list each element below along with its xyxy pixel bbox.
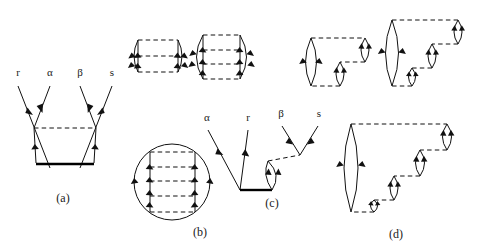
caption-d: (d) — [389, 227, 403, 241]
panel-d-group: (d) — [336, 124, 454, 241]
figure-page: (a) r α β s — [0, 0, 477, 248]
panel-b-medium-ladder — [188, 35, 254, 79]
caption-c: (c) — [265, 196, 278, 210]
panel-a-group: (a) r α β s — [16, 66, 114, 205]
caption-b: (b) — [193, 225, 207, 239]
label-a-r: r — [16, 66, 20, 78]
label-a-s: s — [110, 66, 114, 78]
diagram-canvas: (a) r α β s — [0, 0, 477, 248]
label-c-alpha: α — [204, 111, 210, 123]
label-c-s: s — [317, 107, 321, 119]
panel-c-group: (c) α r β s — [204, 107, 321, 210]
panel-b-small-ladder — [128, 40, 188, 72]
label-c-beta: β — [278, 107, 284, 119]
top-chain-diagram-1 — [299, 38, 372, 86]
label-a-alpha: α — [47, 66, 53, 78]
caption-a: (a) — [56, 191, 69, 205]
top-chain-diagram-2 — [378, 20, 465, 86]
label-c-r: r — [246, 111, 250, 123]
label-a-beta: β — [77, 66, 83, 78]
panel-b-circle-ladder: (b) — [131, 144, 214, 239]
